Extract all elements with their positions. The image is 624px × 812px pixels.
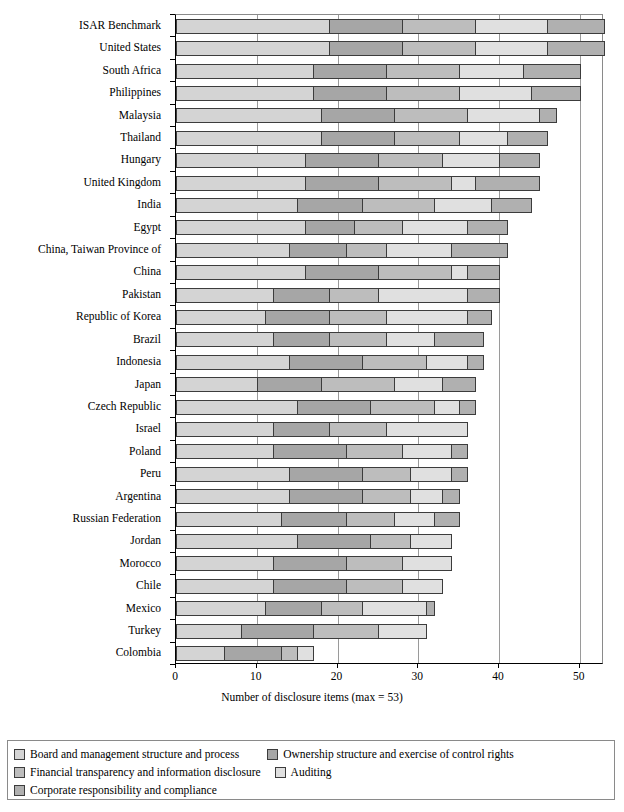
bar-segment bbox=[386, 86, 460, 101]
bar-segment bbox=[289, 467, 363, 482]
bar-segment bbox=[176, 489, 290, 504]
y-axis-tick bbox=[170, 305, 175, 306]
stacked-bar[interactable] bbox=[176, 288, 500, 303]
y-axis-tick bbox=[170, 395, 175, 396]
stacked-bar[interactable] bbox=[176, 467, 468, 482]
legend-item-auditing[interactable]: Auditing bbox=[275, 766, 332, 778]
stacked-bar[interactable] bbox=[176, 377, 476, 392]
bar-row bbox=[176, 239, 602, 261]
y-axis-tick bbox=[170, 440, 175, 441]
bar-segment bbox=[329, 288, 378, 303]
bar-row bbox=[176, 598, 602, 620]
bar-segment bbox=[313, 64, 387, 79]
stacked-bar[interactable] bbox=[176, 444, 468, 459]
bar-row bbox=[176, 172, 602, 194]
bar-segment bbox=[176, 265, 306, 280]
stacked-bar[interactable] bbox=[176, 646, 314, 661]
stacked-bar[interactable] bbox=[176, 108, 557, 123]
bar-row bbox=[176, 575, 602, 597]
bar-segment bbox=[547, 41, 605, 56]
bar-row bbox=[176, 508, 602, 530]
y-axis-tick bbox=[170, 574, 175, 575]
bar-row bbox=[176, 284, 602, 306]
bar-segment bbox=[265, 310, 331, 325]
stacked-bar[interactable] bbox=[176, 624, 427, 639]
stacked-bar[interactable] bbox=[176, 243, 508, 258]
stacked-bar[interactable] bbox=[176, 153, 540, 168]
y-axis-label: Brazil bbox=[0, 328, 168, 350]
bar-segment bbox=[176, 243, 290, 258]
x-axis-tick bbox=[175, 664, 176, 668]
bar-segment bbox=[346, 243, 387, 258]
bar-segment bbox=[467, 108, 541, 123]
bar-segment bbox=[467, 310, 492, 325]
bar-segment bbox=[402, 19, 476, 34]
y-axis-label: South Africa bbox=[0, 59, 168, 81]
legend-item-financial-transparency[interactable]: Financial transparency and information d… bbox=[14, 766, 261, 778]
stacked-bar[interactable] bbox=[176, 534, 452, 549]
y-axis-tick bbox=[170, 216, 175, 217]
y-axis-tick bbox=[170, 373, 175, 374]
disclosure-items-stacked-bar-chart: ISAR BenchmarkUnited StatesSouth AfricaP… bbox=[0, 0, 624, 812]
bar-row bbox=[176, 642, 602, 664]
stacked-bar[interactable] bbox=[176, 489, 460, 504]
bar-segment bbox=[273, 556, 347, 571]
y-axis-label: Egypt bbox=[0, 216, 168, 238]
bar-segment bbox=[273, 579, 347, 594]
stacked-bar[interactable] bbox=[176, 310, 492, 325]
y-axis-tick bbox=[170, 14, 175, 15]
bar-row bbox=[176, 15, 602, 37]
y-axis-tick bbox=[170, 485, 175, 486]
bar-segment bbox=[386, 422, 468, 437]
y-axis-label: Colombia bbox=[0, 641, 168, 663]
stacked-bar[interactable] bbox=[176, 400, 476, 415]
legend-swatch-icon bbox=[267, 749, 278, 760]
bar-segment bbox=[273, 288, 331, 303]
bar-segment bbox=[459, 131, 508, 146]
bar-segment bbox=[321, 131, 395, 146]
y-axis-label: China bbox=[0, 260, 168, 282]
bar-segment bbox=[176, 579, 274, 594]
bar-segment bbox=[459, 86, 533, 101]
bar-segment bbox=[305, 153, 379, 168]
x-axis-tick bbox=[498, 664, 499, 668]
stacked-bar[interactable] bbox=[176, 64, 581, 79]
stacked-bar[interactable] bbox=[176, 332, 484, 347]
bar-segment bbox=[297, 400, 371, 415]
stacked-bar[interactable] bbox=[176, 86, 581, 101]
legend-label: Board and management structure and proce… bbox=[30, 748, 239, 760]
stacked-bar[interactable] bbox=[176, 131, 548, 146]
y-axis-tick bbox=[170, 104, 175, 105]
bar-segment bbox=[176, 601, 266, 616]
y-axis-tick bbox=[170, 148, 175, 149]
bar-segment bbox=[451, 243, 509, 258]
stacked-bar[interactable] bbox=[176, 198, 532, 213]
bar-segment bbox=[313, 86, 387, 101]
y-axis-label: Morocco bbox=[0, 552, 168, 574]
legend-label: Corporate responsibility and compliance bbox=[30, 784, 217, 796]
stacked-bar[interactable] bbox=[176, 265, 500, 280]
stacked-bar[interactable] bbox=[176, 176, 540, 191]
legend-item-ownership-structure[interactable]: Ownership structure and exercise of cont… bbox=[267, 748, 514, 760]
stacked-bar[interactable] bbox=[176, 41, 605, 56]
x-axis-tick-label: 40 bbox=[478, 670, 518, 682]
bar-segment bbox=[281, 646, 298, 661]
stacked-bar[interactable] bbox=[176, 601, 435, 616]
bar-segment bbox=[289, 243, 347, 258]
stacked-bar[interactable] bbox=[176, 422, 468, 437]
stacked-bar[interactable] bbox=[176, 556, 452, 571]
stacked-bar[interactable] bbox=[176, 512, 460, 527]
bar-segment bbox=[329, 19, 403, 34]
bar-segment bbox=[451, 444, 468, 459]
bar-segment bbox=[305, 265, 379, 280]
legend-swatch-icon bbox=[14, 767, 25, 778]
stacked-bar[interactable] bbox=[176, 579, 443, 594]
bar-segment bbox=[378, 153, 444, 168]
stacked-bar[interactable] bbox=[176, 220, 508, 235]
bar-segment bbox=[354, 220, 403, 235]
stacked-bar[interactable] bbox=[176, 19, 605, 34]
legend-item-board-management[interactable]: Board and management structure and proce… bbox=[14, 748, 239, 760]
bar-segment bbox=[176, 19, 330, 34]
legend-item-corporate-responsibility[interactable]: Corporate responsibility and compliance bbox=[14, 784, 217, 796]
stacked-bar[interactable] bbox=[176, 355, 484, 370]
